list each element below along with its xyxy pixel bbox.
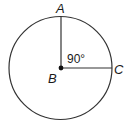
angle-label: 90° (67, 52, 85, 66)
label-b: B (48, 71, 57, 86)
label-a: A (55, 1, 65, 16)
circle-diagram: A B C 90° (0, 0, 126, 121)
center-point-b (59, 66, 64, 71)
label-c: C (114, 62, 124, 77)
